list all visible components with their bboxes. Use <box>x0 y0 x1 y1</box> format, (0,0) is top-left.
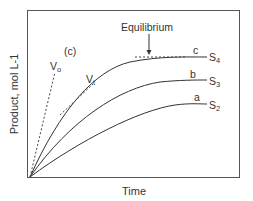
curve-b <box>30 80 207 177</box>
vo-label: Vo <box>50 60 61 74</box>
s2-label: S2 <box>209 99 220 113</box>
s4-label: S4 <box>209 51 220 65</box>
curve-c-label: c <box>193 44 198 56</box>
y-axis-label: Product, mol L-1 <box>8 54 20 135</box>
plot-frame <box>28 11 240 178</box>
curve-a <box>30 104 207 177</box>
curve-a-label: a <box>194 91 200 103</box>
equilibrium-arrowhead <box>147 50 152 55</box>
x-axis-label: Time <box>122 185 146 197</box>
curve-b-label: b <box>190 68 196 80</box>
c-paren-label: (c) <box>64 45 76 57</box>
vt-label: Vt <box>86 73 96 87</box>
vo-tangent <box>30 72 55 177</box>
s3-label: S3 <box>209 75 220 89</box>
equilibrium-label: Equilibrium <box>121 21 173 33</box>
reaction-progress-diagram: Equilibrium (c) Vo Vt c S4 b S3 a S2 Tim… <box>0 0 253 201</box>
